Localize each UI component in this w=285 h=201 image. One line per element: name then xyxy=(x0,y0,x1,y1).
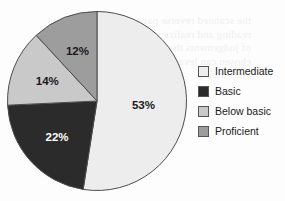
pie-chart-figure: the scanned reverse page show through fa… xyxy=(0,0,285,201)
pie-slices xyxy=(8,11,187,190)
legend-item-label: Basic xyxy=(215,85,241,97)
pie-slice-label: 53% xyxy=(132,99,155,111)
pie-slice-label: 14% xyxy=(36,75,59,87)
legend-item[interactable]: Proficient xyxy=(198,121,284,141)
chart-legend: IntermediateBasicBelow basicProficient xyxy=(198,61,284,141)
legend-item-label: Below basic xyxy=(215,105,271,117)
legend-swatch-icon xyxy=(198,66,209,77)
pie-slice-label: 12% xyxy=(66,45,89,57)
legend-swatch-icon xyxy=(198,106,209,117)
legend-item[interactable]: Basic xyxy=(198,81,284,101)
legend-item[interactable]: Intermediate xyxy=(198,61,284,81)
legend-swatch-icon xyxy=(198,126,209,137)
legend-item-label: Proficient xyxy=(215,125,259,137)
pie-slice-label: 22% xyxy=(46,131,69,143)
pie-slice xyxy=(8,101,97,189)
legend-swatch-icon xyxy=(198,86,209,97)
legend-item[interactable]: Below basic xyxy=(198,101,284,121)
legend-item-label: Intermediate xyxy=(215,65,273,77)
